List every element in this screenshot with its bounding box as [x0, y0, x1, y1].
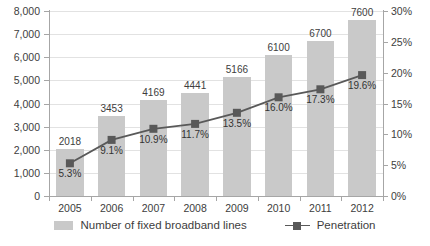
line-square-swatch-icon — [285, 221, 310, 230]
left-tick — [44, 57, 49, 58]
category-tick — [133, 196, 134, 201]
left-axis-label-6000: 6,000 — [0, 52, 40, 63]
right-tick — [383, 73, 388, 74]
category-label-2009: 2009 — [214, 203, 260, 214]
category-label-2011: 2011 — [297, 203, 343, 214]
bar-value-label-2010: 6100 — [256, 43, 302, 53]
penetration-value-label-2010: 16.0% — [256, 103, 302, 113]
category-tick — [216, 196, 217, 201]
category-label-2010: 2010 — [256, 203, 302, 214]
left-axis-label-2000: 2,000 — [0, 145, 40, 156]
bar-value-label-2012: 7600 — [339, 8, 385, 18]
legend-label-penetration: Penetration — [317, 219, 376, 231]
left-axis-label-8000: 8,000 — [0, 6, 40, 17]
left-tick — [44, 104, 49, 105]
penetration-marker-2006[interactable] — [108, 136, 116, 144]
category-tick — [258, 196, 259, 201]
left-tick — [44, 127, 49, 128]
left-axis-label-3000: 3,000 — [0, 122, 40, 133]
penetration-marker-2009[interactable] — [233, 109, 241, 117]
left-tick — [44, 34, 49, 35]
right-axis-label-5: 5% — [391, 160, 430, 171]
right-axis-label-15: 15% — [391, 99, 430, 110]
bar-value-label-2009: 5166 — [214, 65, 260, 75]
penetration-marker-2011[interactable] — [316, 85, 324, 93]
category-tick — [383, 196, 384, 201]
penetration-marker-2007[interactable] — [149, 125, 157, 133]
penetration-value-label-2006: 9.1% — [89, 146, 135, 156]
category-tick — [300, 196, 301, 201]
right-tick — [383, 134, 388, 135]
legend-item-broadband-lines[interactable]: Number of fixed broadband lines — [54, 219, 246, 231]
category-label-2012: 2012 — [339, 203, 385, 214]
category-tick — [49, 196, 50, 201]
penetration-value-label-2009: 13.5% — [214, 119, 260, 129]
right-tick — [383, 165, 388, 166]
legend-label-broadband-lines: Number of fixed broadband lines — [80, 219, 246, 231]
left-axis-label-5000: 5,000 — [0, 75, 40, 86]
left-tick — [44, 80, 49, 81]
right-axis-label-20: 20% — [391, 68, 430, 79]
right-tick — [383, 42, 388, 43]
penetration-value-label-2005: 5.3% — [47, 169, 93, 179]
right-axis-label-30: 30% — [391, 6, 430, 17]
bar-value-label-2008: 4441 — [172, 81, 218, 91]
category-label-2008: 2008 — [172, 203, 218, 214]
left-axis-label-4000: 4,000 — [0, 99, 40, 110]
right-axis-label-25: 25% — [391, 37, 430, 48]
category-label-2005: 2005 — [47, 203, 93, 214]
bar-value-label-2006: 3453 — [89, 104, 135, 114]
bar-value-label-2007: 4169 — [130, 88, 176, 98]
right-axis-label-0: 0% — [391, 191, 430, 202]
penetration-marker-2010[interactable] — [275, 93, 283, 101]
category-label-2007: 2007 — [130, 203, 176, 214]
category-label-2006: 2006 — [89, 203, 135, 214]
broadband-penetration-chart: 01,0002,0003,0004,0005,0006,0007,0008,00… — [0, 0, 430, 246]
penetration-value-label-2011: 17.3% — [297, 95, 343, 105]
penetration-value-label-2008: 11.7% — [172, 130, 218, 140]
bar-value-label-2011: 6700 — [297, 29, 343, 39]
penetration-value-label-2012: 19.6% — [339, 81, 385, 91]
category-tick — [91, 196, 92, 201]
left-axis-label-7000: 7,000 — [0, 29, 40, 40]
penetration-value-label-2007: 10.9% — [130, 135, 176, 145]
left-tick — [44, 150, 49, 151]
penetration-marker-2005[interactable] — [66, 159, 74, 167]
legend-item-penetration[interactable]: Penetration — [285, 219, 376, 231]
penetration-marker-2012[interactable] — [358, 71, 366, 79]
left-tick — [44, 11, 49, 12]
right-axis-label-10: 10% — [391, 129, 430, 140]
category-tick — [341, 196, 342, 201]
category-tick — [174, 196, 175, 201]
bar-value-label-2005: 2018 — [47, 137, 93, 147]
right-tick — [383, 104, 388, 105]
bar-swatch-icon — [54, 221, 73, 230]
chart-legend: Number of fixed broadband lines Penetrat… — [0, 219, 430, 231]
left-axis-label-1000: 1,000 — [0, 168, 40, 179]
left-axis-label-0: 0 — [0, 191, 40, 202]
penetration-marker-2008[interactable] — [191, 120, 199, 128]
